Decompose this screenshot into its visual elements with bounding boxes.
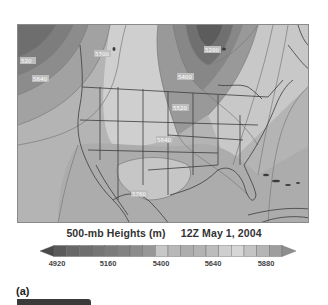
colorbar-segment xyxy=(244,246,257,257)
contour-label: 5520 xyxy=(173,105,187,111)
colorbar-segment xyxy=(79,246,92,257)
next-panel-edge xyxy=(17,299,91,305)
contour-label: 520 xyxy=(21,58,32,64)
colorbar-segment xyxy=(155,246,168,257)
colorbar-segments xyxy=(54,246,282,257)
contour-label: 5760 xyxy=(132,191,146,197)
colorbar-tick: 5640 xyxy=(205,259,222,268)
colorbar-segment xyxy=(105,246,118,257)
contour-label: 5280 xyxy=(205,47,219,53)
colorbar-segment xyxy=(231,246,244,257)
panel-label: (a) xyxy=(16,285,29,297)
colorbar-max-arrow xyxy=(282,246,296,257)
title-variable: 500-mb Heights (m) xyxy=(66,227,165,239)
colorbar-segment xyxy=(54,246,67,257)
colorbar-segment xyxy=(269,246,282,257)
contour-label: 5400 xyxy=(178,74,192,80)
colorbar-segment xyxy=(206,246,219,257)
colorbar-segment xyxy=(168,246,181,257)
colorbar-segment xyxy=(92,246,105,257)
colorbar-segment xyxy=(67,246,80,257)
contour-label: 5640 xyxy=(157,137,171,143)
colorbar-segment xyxy=(130,246,143,257)
colorbar-min-arrow xyxy=(40,246,54,257)
colorbar-segment xyxy=(181,246,194,257)
colorbar-segment xyxy=(117,246,130,257)
contour-label: 5700 xyxy=(95,51,109,57)
colorbar-tick-labels: 4920 5160 5400 5640 5880 xyxy=(0,259,328,271)
colorbar xyxy=(40,245,296,257)
colorbar-tick: 5400 xyxy=(153,259,170,268)
figure-title: 500-mb Heights (m) 12Z May 1, 2004 xyxy=(0,227,328,239)
colorbar-segment xyxy=(193,246,206,257)
contour-label: 5640 xyxy=(33,76,47,82)
height-contour-map: 520 5640 5700 5280 5400 5520 5640 5760 xyxy=(17,24,309,223)
colorbar-segment xyxy=(143,246,156,257)
colorbar-tick: 5880 xyxy=(258,259,275,268)
colorbar-segment xyxy=(257,246,270,257)
colorbar-tick: 4920 xyxy=(49,259,66,268)
colorbar-tick: 5160 xyxy=(100,259,117,268)
title-time: 12Z May 1, 2004 xyxy=(181,227,262,239)
colorbar-segment xyxy=(219,246,232,257)
map-canvas: 520 5640 5700 5280 5400 5520 5640 5760 xyxy=(18,25,309,223)
